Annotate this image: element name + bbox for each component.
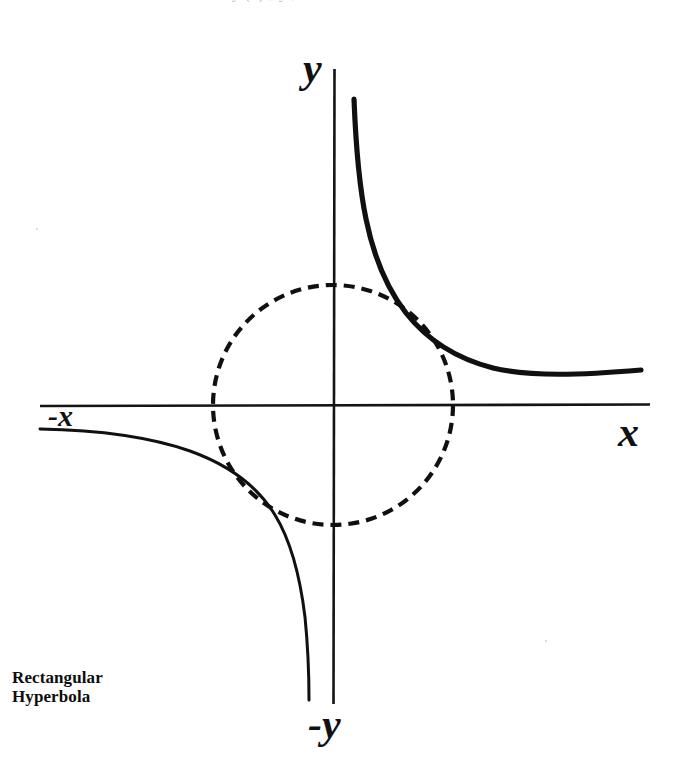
figure-caption: Rectangular Hyperbola: [12, 668, 232, 706]
axis-label-y-positive: y: [298, 45, 322, 91]
figure-root: y (x) , y , y -y x -x Rectangular Hyperb…: [0, 0, 688, 759]
rectangular-hyperbola-plot: y -y x -x: [0, 0, 688, 759]
caption-line-2: Hyperbola: [12, 687, 232, 706]
axis-label-x-positive: x: [617, 409, 639, 455]
hyperbola-branch-quadrant-3: [40, 429, 309, 700]
axis-label-x-negative: -x: [48, 399, 73, 432]
x-axis-line: [40, 405, 650, 407]
y-axis-line: [334, 69, 335, 704]
axis-label-y-negative: -y: [308, 701, 341, 747]
caption-line-1: Rectangular: [12, 668, 232, 687]
hyperbola-branch-quadrant-1: [354, 99, 641, 374]
